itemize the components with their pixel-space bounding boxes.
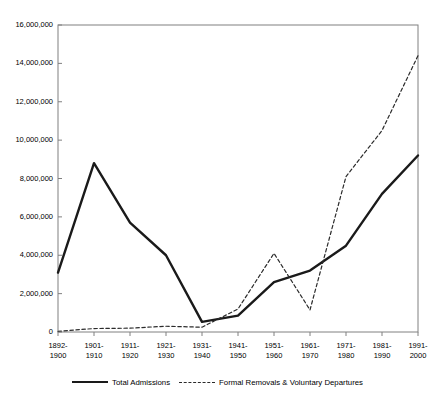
x-axis-tick-label: 1991-2000	[396, 341, 435, 360]
y-axis-tick-label: 16,000,000	[15, 20, 53, 29]
x-axis-tick-label-line: 2000	[396, 351, 435, 361]
chart-container: 02,000,0004,000,0006,000,0008,000,00010,…	[0, 0, 435, 396]
plot-frame	[58, 25, 418, 332]
y-axis-tick-label: 6,000,000	[20, 212, 53, 221]
legend-line-solid-icon	[72, 381, 108, 383]
legend-line-dashed-icon	[179, 382, 215, 383]
y-axis-tick-label: 14,000,000	[15, 58, 53, 67]
y-axis-tick-label: 4,000,000	[20, 250, 53, 259]
line-chart-plot	[0, 0, 435, 396]
y-axis-tick-label: 12,000,000	[15, 97, 53, 106]
series-line-total-admissions	[58, 155, 418, 321]
legend-item-total-admissions: Total Admissions	[72, 378, 170, 387]
legend-item-formal-removals: Formal Removals & Voluntary Departures	[179, 378, 363, 387]
y-axis-tick-label: 0	[49, 327, 53, 336]
legend-label-formal-removals: Formal Removals & Voluntary Departures	[219, 378, 363, 387]
y-axis-tick-label: 2,000,000	[20, 289, 53, 298]
legend-label-total-admissions: Total Admissions	[112, 378, 170, 387]
x-axis-tick-label-line: 1991-	[396, 341, 435, 351]
y-axis-tick-label: 10,000,000	[15, 135, 53, 144]
y-axis-tick-label: 8,000,000	[20, 174, 53, 183]
chart-legend: Total Admissions Formal Removals & Volun…	[0, 374, 435, 390]
